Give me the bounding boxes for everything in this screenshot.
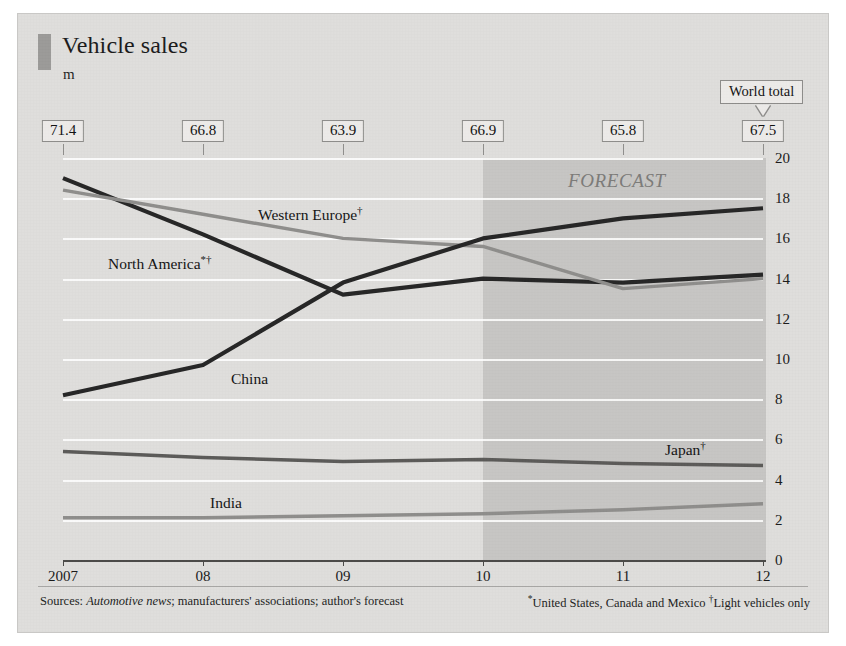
chart-plot-area: FORECAST 20070809101112 0246810121416182… <box>63 158 763 560</box>
y-axis-label: 20 <box>775 150 790 167</box>
x-axis-label: 11 <box>616 568 630 585</box>
series-label-china: China <box>231 370 268 388</box>
series-line-india <box>63 504 763 518</box>
unit-label: m <box>63 66 75 83</box>
y-axis-label: 4 <box>775 471 783 488</box>
source-publication: Automotive news <box>86 594 171 608</box>
y-axis-label: 16 <box>775 230 790 247</box>
chart-card: Vehicle sales m World total 71.466.863.9… <box>18 14 828 632</box>
footnote-note: *United States, Canada and Mexico †Light… <box>528 594 810 611</box>
world-total-value: 63.9 <box>322 120 364 142</box>
source-rest: ; manufacturers' associations; author's … <box>171 594 403 608</box>
x-axis-tick <box>203 560 204 566</box>
x-axis-tick <box>63 560 64 566</box>
y-axis-label: 18 <box>775 190 790 207</box>
title-accent-bar <box>38 34 51 70</box>
x-axis-label: 2007 <box>48 568 78 585</box>
x-axis-tick <box>623 560 624 566</box>
x-axis-tick <box>343 560 344 566</box>
y-axis-label: 14 <box>775 270 790 287</box>
world-total-value: 71.4 <box>42 120 84 142</box>
y-axis-label: 6 <box>775 431 783 448</box>
y-axis-label: 8 <box>775 391 783 408</box>
series-label-north-america: North America*† <box>108 253 212 273</box>
series-lines <box>63 158 766 562</box>
y-axis-label: 0 <box>775 552 783 569</box>
series-label-western-europe: Western Europe† <box>258 204 363 224</box>
source-prefix: Sources: <box>40 594 86 608</box>
world-total-value: 66.9 <box>462 120 504 142</box>
world-total-callout: World total <box>720 80 803 104</box>
world-total-value: 66.8 <box>182 120 224 142</box>
series-label-india: India <box>210 494 242 512</box>
series-label-japan: Japan† <box>665 439 706 459</box>
world-total-tick <box>623 144 624 155</box>
source-note: Sources: Automotive news; manufacturers'… <box>40 594 403 609</box>
series-line-japan <box>63 451 763 465</box>
series-line-north-america <box>63 178 763 295</box>
world-total-tick <box>203 144 204 155</box>
x-axis-label: 12 <box>756 568 771 585</box>
y-axis-label: 10 <box>775 351 790 368</box>
x-axis-label: 10 <box>476 568 491 585</box>
series-line-western-europe <box>63 190 763 288</box>
page-title: Vehicle sales <box>62 32 188 59</box>
y-axis-label: 2 <box>775 511 783 528</box>
x-axis-tick <box>483 560 484 566</box>
world-total-tick <box>483 144 484 155</box>
x-axis-tick <box>763 560 764 566</box>
series-line-china <box>63 208 763 395</box>
x-axis-line <box>63 560 766 562</box>
world-total-tick <box>763 144 764 155</box>
footer-divider <box>38 586 808 587</box>
x-axis-label: 09 <box>336 568 351 585</box>
world-total-value: 67.5 <box>742 120 784 142</box>
world-total-value: 65.8 <box>602 120 644 142</box>
x-axis-label: 08 <box>196 568 211 585</box>
world-total-tick <box>63 144 64 155</box>
y-axis-label: 12 <box>775 310 790 327</box>
world-total-callout-pointer <box>756 105 770 116</box>
world-total-tick <box>343 144 344 155</box>
